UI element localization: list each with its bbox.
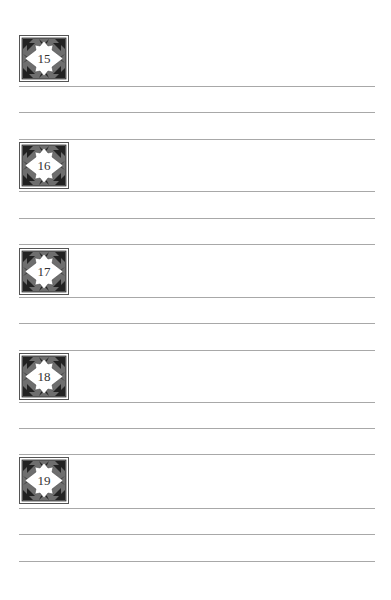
section-number: 16 [19,142,69,189]
write-line [19,218,375,219]
write-line [19,86,375,87]
section-number: 18 [19,353,69,400]
write-line [19,402,375,403]
section-badge: 15 [19,35,69,82]
section-badge: 18 [19,353,69,400]
write-line [19,323,375,324]
section-number: 15 [19,35,69,82]
write-line [19,508,375,509]
section-badge: 16 [19,142,69,189]
write-line [19,534,375,535]
write-line [19,112,375,113]
write-line [19,297,375,298]
write-line [19,244,375,245]
write-line [19,191,375,192]
write-line [19,139,375,140]
write-line [19,454,375,455]
section-number: 19 [19,457,69,504]
section-number: 17 [19,248,69,295]
write-line [19,350,375,351]
section-badge: 17 [19,248,69,295]
write-line [19,428,375,429]
write-line [19,561,375,562]
section-badge: 19 [19,457,69,504]
